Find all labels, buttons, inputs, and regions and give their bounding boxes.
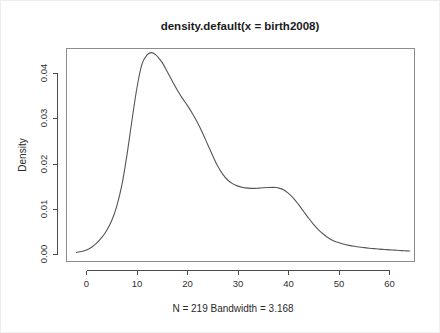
density-plot-canvas: density.default(x = birth2008) 0.00 0.01… xyxy=(0,0,440,333)
x-tick-label-40: 40 xyxy=(283,278,294,289)
plot-title: density.default(x = birth2008) xyxy=(161,20,320,32)
x-tick-label-10: 10 xyxy=(132,278,143,289)
y-tick-label-3: 0.03 xyxy=(38,109,49,128)
x-tick-label-20: 20 xyxy=(182,278,193,289)
y-tick-label-2: 0.02 xyxy=(38,155,49,174)
density-plot-screenshot: density.default(x = birth2008) 0.00 0.01… xyxy=(0,0,440,333)
y-tick-label-4: 0.04 xyxy=(38,64,49,83)
density-curve xyxy=(76,53,409,253)
y-tick-label-0: 0.00 xyxy=(38,245,49,264)
y-axis-label: Density xyxy=(17,138,28,171)
x-tick-label-60: 60 xyxy=(384,278,395,289)
plot-subtitle: N = 219 Bandwidth = 3.168 xyxy=(172,303,294,314)
x-tick-label-50: 50 xyxy=(334,278,345,289)
x-tick-label-0: 0 xyxy=(84,278,89,289)
x-tick-label-30: 30 xyxy=(233,278,244,289)
plot-panel-border xyxy=(67,49,415,262)
y-tick-label-1: 0.01 xyxy=(38,200,49,219)
